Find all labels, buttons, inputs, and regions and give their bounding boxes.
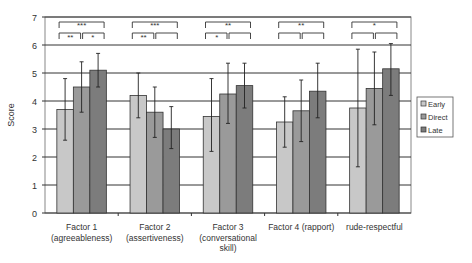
svg-text:**: ** [140, 33, 146, 42]
legend-label: Direct [428, 113, 449, 122]
y-tick-label: 6 [32, 41, 37, 51]
bar-chart: 01234567ScoreFactor 1(agreeableness)Fact… [0, 0, 472, 263]
legend-label: Late [428, 126, 443, 135]
x-tick-label: Factor 2 [139, 222, 170, 232]
x-tick-label: rude-respectful [346, 222, 403, 232]
legend: EarlyDirectLate [417, 97, 453, 137]
legend-swatch [421, 101, 426, 106]
y-tick-label: 5 [32, 69, 37, 79]
x-tick-label: Factor 1 [66, 222, 97, 232]
svg-text:**: ** [225, 21, 231, 30]
y-tick-label: 7 [32, 13, 37, 23]
y-tick-label: 0 [32, 209, 37, 219]
x-tick-label: (conversational [199, 233, 257, 243]
svg-text:***: *** [150, 21, 159, 30]
bar-late [90, 70, 107, 213]
x-tick-label: Factor 4 (rapport) [268, 222, 334, 232]
legend-swatch [421, 114, 426, 119]
x-tick-label: skill) [220, 243, 237, 253]
y-tick-label: 2 [32, 153, 37, 163]
svg-text:*: * [373, 21, 376, 30]
legend-label: Early [428, 100, 445, 109]
y-tick-label: 1 [32, 181, 37, 191]
y-tick-label: 3 [32, 125, 37, 135]
svg-text:**: ** [67, 33, 73, 42]
svg-text:***: *** [77, 21, 86, 30]
x-tick-label: Factor 3 [212, 222, 243, 232]
y-tick-label: 4 [32, 97, 37, 107]
legend-swatch [421, 127, 426, 132]
x-tick-label: (assertiveness) [126, 233, 184, 243]
x-tick-label: (agreeableness) [51, 233, 113, 243]
svg-text:*: * [215, 33, 218, 42]
svg-text:**: ** [298, 21, 304, 30]
svg-text:*: * [91, 33, 94, 42]
y-axis-label: Score [6, 103, 16, 127]
